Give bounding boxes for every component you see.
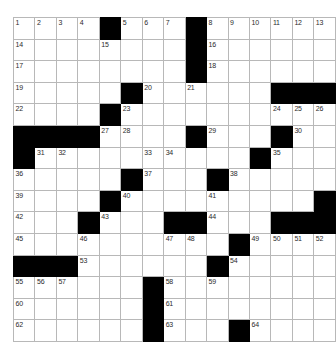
crossword-cell[interactable] [99,147,120,169]
crossword-cell[interactable] [164,104,185,126]
crossword-cell[interactable]: 55 [14,277,35,299]
crossword-cell[interactable] [56,169,77,191]
crossword-cell[interactable] [207,147,228,169]
crossword-cell[interactable] [207,82,228,104]
crossword-cell[interactable] [142,212,163,234]
crossword-cell[interactable] [228,277,249,299]
crossword-cell[interactable] [292,255,313,277]
crossword-cell[interactable] [314,147,336,169]
crossword-cell[interactable] [56,212,77,234]
crossword-cell[interactable] [271,298,292,320]
crossword-cell[interactable] [228,147,249,169]
crossword-cell[interactable] [185,169,206,191]
crossword-cell[interactable]: 56 [35,277,56,299]
crossword-cell[interactable]: 43 [99,212,120,234]
crossword-cell[interactable]: 62 [14,320,35,342]
crossword-cell[interactable] [314,125,336,147]
crossword-cell[interactable] [314,169,336,191]
crossword-cell[interactable]: 46 [78,233,99,255]
crossword-grid[interactable]: 1234567891011121314151617181920212223242… [13,17,336,342]
crossword-cell[interactable] [35,104,56,126]
crossword-cell[interactable] [228,61,249,83]
crossword-cell[interactable]: 30 [292,125,313,147]
crossword-cell[interactable] [249,104,270,126]
crossword-cell[interactable] [121,298,142,320]
crossword-cell[interactable] [271,190,292,212]
crossword-cell[interactable] [292,39,313,61]
crossword-cell[interactable] [228,125,249,147]
crossword-cell[interactable] [99,298,120,320]
crossword-cell[interactable] [78,147,99,169]
crossword-cell[interactable] [228,212,249,234]
crossword-cell[interactable] [35,61,56,83]
crossword-cell[interactable] [314,39,336,61]
crossword-cell[interactable] [292,320,313,342]
crossword-cell[interactable]: 23 [121,104,142,126]
crossword-cell[interactable] [271,255,292,277]
crossword-cell[interactable]: 22 [14,104,35,126]
crossword-cell[interactable] [56,233,77,255]
crossword-cell[interactable]: 49 [249,233,270,255]
crossword-cell[interactable]: 8 [207,18,228,40]
crossword-cell[interactable] [164,61,185,83]
crossword-cell[interactable] [185,104,206,126]
crossword-cell[interactable]: 2 [35,18,56,40]
crossword-cell[interactable]: 4 [78,18,99,40]
crossword-cell[interactable] [78,39,99,61]
crossword-cell[interactable] [249,277,270,299]
crossword-cell[interactable] [271,277,292,299]
crossword-cell[interactable]: 60 [14,298,35,320]
crossword-cell[interactable] [35,39,56,61]
crossword-cell[interactable] [78,277,99,299]
crossword-cell[interactable]: 44 [207,212,228,234]
crossword-cell[interactable]: 39 [14,190,35,212]
crossword-cell[interactable]: 36 [14,169,35,191]
crossword-cell[interactable] [292,61,313,83]
crossword-cell[interactable]: 17 [14,61,35,83]
crossword-cell[interactable]: 6 [142,18,163,40]
crossword-cell[interactable] [35,298,56,320]
crossword-cell[interactable] [292,147,313,169]
crossword-cell[interactable] [164,190,185,212]
crossword-cell[interactable] [35,212,56,234]
crossword-cell[interactable] [78,82,99,104]
crossword-cell[interactable] [99,233,120,255]
crossword-cell[interactable]: 53 [78,255,99,277]
crossword-cell[interactable]: 42 [14,212,35,234]
crossword-cell[interactable] [121,320,142,342]
crossword-cell[interactable] [249,125,270,147]
crossword-cell[interactable] [99,61,120,83]
crossword-cell[interactable] [121,39,142,61]
crossword-cell[interactable] [99,169,120,191]
crossword-cell[interactable]: 5 [121,18,142,40]
crossword-cell[interactable] [164,169,185,191]
crossword-cell[interactable] [185,255,206,277]
crossword-cell[interactable] [164,125,185,147]
crossword-cell[interactable] [249,298,270,320]
crossword-cell[interactable]: 14 [14,39,35,61]
crossword-cell[interactable] [164,39,185,61]
crossword-cell[interactable] [185,147,206,169]
crossword-cell[interactable] [35,233,56,255]
crossword-cell[interactable] [56,320,77,342]
crossword-cell[interactable] [314,61,336,83]
crossword-cell[interactable]: 59 [207,277,228,299]
crossword-cell[interactable] [35,320,56,342]
crossword-cell[interactable]: 1 [14,18,35,40]
crossword-cell[interactable] [142,61,163,83]
crossword-cell[interactable] [99,82,120,104]
crossword-cell[interactable]: 26 [314,104,336,126]
crossword-cell[interactable] [56,39,77,61]
crossword-cell[interactable] [121,233,142,255]
crossword-cell[interactable] [56,190,77,212]
crossword-cell[interactable] [249,212,270,234]
crossword-cell[interactable] [142,125,163,147]
crossword-cell[interactable] [207,104,228,126]
crossword-cell[interactable] [78,298,99,320]
crossword-cell[interactable] [314,255,336,277]
crossword-cell[interactable] [228,298,249,320]
crossword-cell[interactable] [185,277,206,299]
crossword-cell[interactable]: 27 [99,125,120,147]
crossword-cell[interactable] [271,320,292,342]
crossword-cell[interactable] [207,298,228,320]
